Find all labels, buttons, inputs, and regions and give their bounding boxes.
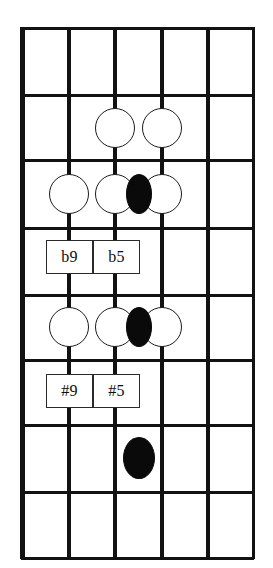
interval-label-b9: b9 [46, 240, 93, 274]
interval-labels-group: b9b5#9#5 [0, 0, 273, 568]
interval-label-sharp5-text: #5 [108, 382, 124, 400]
fretboard-diagram: b9b5#9#5 [0, 0, 273, 568]
interval-label-b5-text: b5 [108, 248, 124, 266]
interval-label-b9-text: b9 [61, 248, 77, 266]
interval-label-sharp9-text: #9 [61, 382, 77, 400]
interval-label-sharp9: #9 [46, 374, 93, 408]
interval-label-b5: b5 [93, 240, 140, 274]
interval-label-sharp5: #5 [93, 374, 140, 408]
